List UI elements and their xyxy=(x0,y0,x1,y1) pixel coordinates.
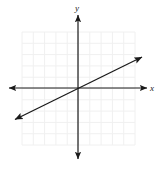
graph-canvas: y x xyxy=(0,0,159,169)
coordinate-plane-figure: y x xyxy=(0,0,159,169)
x-axis-label: x xyxy=(149,83,154,93)
y-axis-label: y xyxy=(74,3,79,13)
